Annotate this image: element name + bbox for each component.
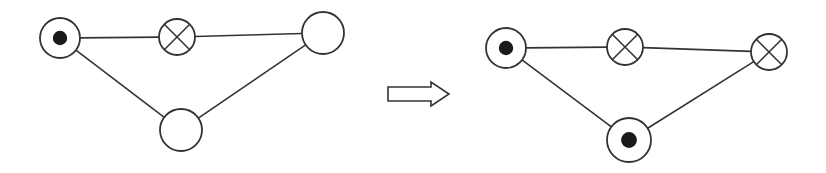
before-node-C-empty-icon xyxy=(302,12,344,54)
after-node-C-cross-icon xyxy=(751,34,787,70)
arrow-shape xyxy=(388,82,449,106)
after-edge-DC xyxy=(648,62,754,129)
after-edge-AB xyxy=(526,47,607,48)
before-node-B-cross-icon xyxy=(159,19,195,55)
before-edge-BC xyxy=(195,34,302,37)
before-graph xyxy=(40,12,344,151)
after-edge-BC xyxy=(643,48,751,52)
before-edge-DC xyxy=(198,45,305,118)
before-node-D-empty-icon xyxy=(160,109,202,151)
before-node-A-dot-icon xyxy=(40,18,80,58)
graph-transformation-diagram xyxy=(0,0,826,173)
after-edge-AD xyxy=(522,60,611,127)
before-edge-AB xyxy=(80,37,159,38)
before-edge-AD xyxy=(76,50,164,117)
after-node-B-cross-icon xyxy=(607,29,643,65)
transition-arrow-icon xyxy=(388,82,449,106)
after-node-D-dot-icon xyxy=(607,118,651,162)
after-graph xyxy=(486,28,787,162)
after-node-A-dot-icon xyxy=(486,28,526,68)
